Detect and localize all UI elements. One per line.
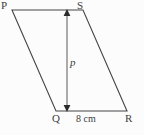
parallelogram-figure: P S R Q p 8 cm	[0, 0, 144, 135]
vertex-label-q: Q	[52, 113, 60, 124]
vertex-label-r: R	[125, 113, 132, 124]
height-label: p	[70, 57, 76, 68]
vertex-label-p: P	[1, 0, 7, 11]
base-measure-label: 8 cm	[76, 114, 96, 124]
vertex-label-s: S	[77, 0, 83, 11]
